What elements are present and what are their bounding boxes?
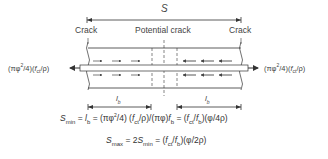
- bond-length-dimension-right: [177, 104, 241, 110]
- potential-crack-label: Potential crack: [135, 25, 191, 35]
- smax-equation: Smax = 2Smin = (fct/fb)(φ/2ρ): [106, 135, 206, 147]
- smin-equation: Smin = lb = (πφ2/4) (fct/ρ)/(πφ)fb = (fc…: [60, 112, 228, 125]
- bond-length-dimension-left: [88, 104, 151, 110]
- crack-right-label: Crack: [229, 25, 251, 35]
- force-left-label: (πφ2/4)(fct/ρ): [8, 62, 49, 74]
- concrete-member: [87, 38, 243, 90]
- reinforcing-bar: [80, 65, 248, 71]
- crack-left-label: Crack: [75, 25, 97, 35]
- bond-length-left-label: lb: [116, 94, 121, 105]
- force-right-label: (πφ2/4)(fct/ρ): [264, 62, 305, 74]
- spacing-label: S: [161, 3, 168, 14]
- bond-length-right-label: lb: [205, 94, 210, 105]
- spacing-dimension-line: [87, 17, 241, 23]
